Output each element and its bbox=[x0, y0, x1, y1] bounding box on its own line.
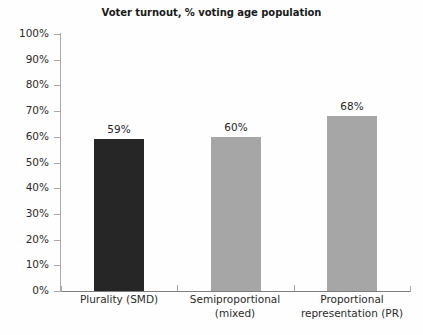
category-separator-tick bbox=[294, 285, 295, 291]
category-axis-end-cap bbox=[61, 286, 62, 292]
y-axis-tick bbox=[54, 137, 61, 138]
y-axis-tick bbox=[54, 111, 61, 112]
category-axis-label-line: (mixed) bbox=[177, 307, 293, 321]
y-axis-tick bbox=[54, 188, 61, 189]
y-axis-tick-label: 90% bbox=[0, 53, 49, 65]
category-axis-label-line: Plurality (SMD) bbox=[61, 293, 177, 307]
y-axis-tick-label: 0% bbox=[0, 284, 49, 296]
category-axis-label-line: Proportional bbox=[294, 293, 410, 307]
chart-title: Voter turnout, % voting age population bbox=[0, 7, 423, 18]
category-axis-label: Plurality (SMD) bbox=[61, 293, 177, 307]
y-axis-tick bbox=[54, 85, 61, 86]
category-axis-label-line: representation (PR) bbox=[294, 307, 410, 321]
x-axis-line bbox=[60, 291, 411, 292]
bar bbox=[211, 137, 261, 291]
bar-chart: Voter turnout, % voting age population 0… bbox=[0, 0, 423, 335]
bar-value-label: 59% bbox=[89, 123, 149, 135]
y-axis-tick bbox=[54, 60, 61, 61]
category-axis-label: Proportionalrepresentation (PR) bbox=[294, 293, 410, 320]
bar bbox=[94, 139, 144, 291]
y-axis-tick-label: 30% bbox=[0, 207, 49, 219]
y-axis-tick-label: 70% bbox=[0, 104, 49, 116]
bar bbox=[327, 116, 377, 291]
y-axis-tick bbox=[54, 265, 61, 266]
category-axis-label: Semiproportional(mixed) bbox=[177, 293, 293, 320]
category-separator-tick bbox=[177, 285, 178, 291]
y-axis-tick-label: 40% bbox=[0, 181, 49, 193]
y-axis-tick-label: 50% bbox=[0, 156, 49, 168]
bar-value-label: 68% bbox=[322, 100, 382, 112]
y-axis-tick-label: 100% bbox=[0, 27, 49, 39]
y-axis-tick-label: 80% bbox=[0, 78, 49, 90]
y-axis-tick bbox=[54, 240, 61, 241]
y-axis-tick bbox=[54, 214, 61, 215]
category-axis-end-cap bbox=[410, 286, 411, 292]
y-axis-tick-label: 20% bbox=[0, 233, 49, 245]
y-axis-tick bbox=[54, 291, 61, 292]
y-axis-tick bbox=[54, 34, 61, 35]
bar-value-label: 60% bbox=[206, 121, 266, 133]
category-axis-label-line: Semiproportional bbox=[177, 293, 293, 307]
y-axis-tick-label: 10% bbox=[0, 258, 49, 270]
y-axis-tick-label: 60% bbox=[0, 130, 49, 142]
y-axis-tick bbox=[54, 163, 61, 164]
